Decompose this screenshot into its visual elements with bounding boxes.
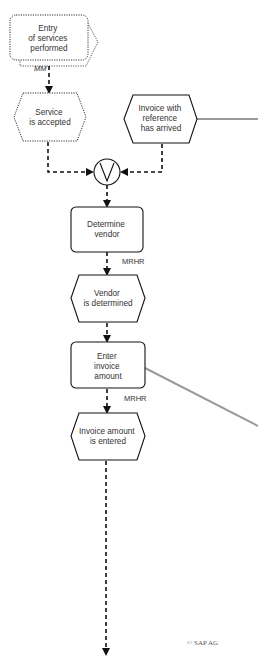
mm-label: MM: [34, 64, 47, 73]
mrhr-label: MRHR: [122, 257, 145, 266]
node-label: Invoice with reference has arrived: [138, 104, 183, 133]
event-invoice-amount-entered[interactable]: Invoice amount is entered: [71, 413, 145, 460]
flow-arrow: [124, 144, 162, 172]
node-label: Enter invoice amount: [94, 352, 122, 381]
event-vendor-determined[interactable]: Vendor is determined: [71, 275, 145, 322]
copyright-label: © SAP AG: [187, 639, 218, 647]
function-determine-vendor[interactable]: Determine vendor: [71, 207, 143, 252]
mrhr-label: MRHR: [124, 394, 147, 403]
epc-diagram: Entry of services performed MM Service i…: [0, 0, 258, 658]
event-hexagon: [14, 93, 86, 141]
flow-arrow: [48, 142, 90, 172]
gray-link-line: [145, 368, 258, 426]
xor-connector[interactable]: [94, 159, 120, 185]
event-invoice-arrived[interactable]: Invoice with reference has arrived: [124, 95, 258, 143]
process-interface-entry-of-services[interactable]: Entry of services performed: [10, 15, 98, 66]
event-service-accepted[interactable]: Service is accepted: [14, 93, 86, 141]
